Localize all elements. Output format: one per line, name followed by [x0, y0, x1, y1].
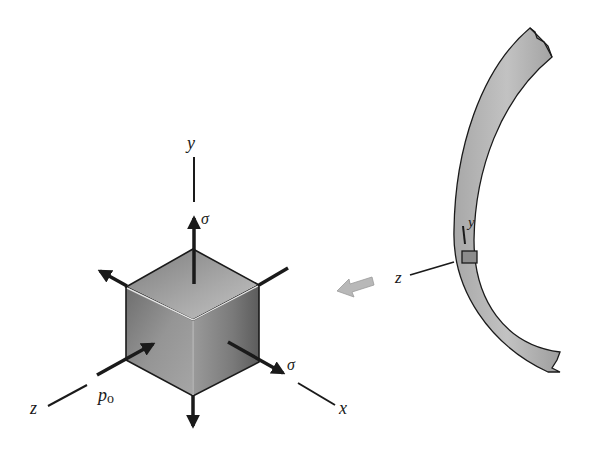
x-axis-label: x: [338, 398, 347, 418]
block-arrow: [337, 277, 374, 297]
z-back-stub: [259, 268, 288, 285]
pressure-label: po: [96, 385, 114, 406]
wall-element: [462, 251, 477, 263]
curved-wall: [454, 28, 560, 372]
wall-y-label: y: [466, 214, 475, 230]
wall-z-axis-line: [410, 262, 454, 275]
block-arrow-shape: [337, 277, 374, 297]
y-axis-label: y: [185, 133, 195, 153]
sigma-top-label: σ: [201, 210, 210, 227]
figure-canvas: y σ σ x z po y z: [0, 0, 589, 450]
sigma-x-back-arrow: [100, 271, 127, 286]
pressure-label-p: p: [96, 385, 107, 405]
z-axis-label: z: [29, 398, 37, 418]
z-axis-line: [48, 385, 87, 406]
wall-z-label: z: [394, 268, 402, 287]
sigma-right-label: σ: [287, 356, 296, 373]
diagram-svg: y σ σ x z po y z: [0, 0, 589, 450]
pressure-label-subscript: o: [107, 391, 114, 406]
x-axis-line: [298, 383, 335, 405]
wall-section-group: y z: [394, 28, 560, 372]
stress-cube-group: y σ σ x z po: [29, 133, 347, 426]
